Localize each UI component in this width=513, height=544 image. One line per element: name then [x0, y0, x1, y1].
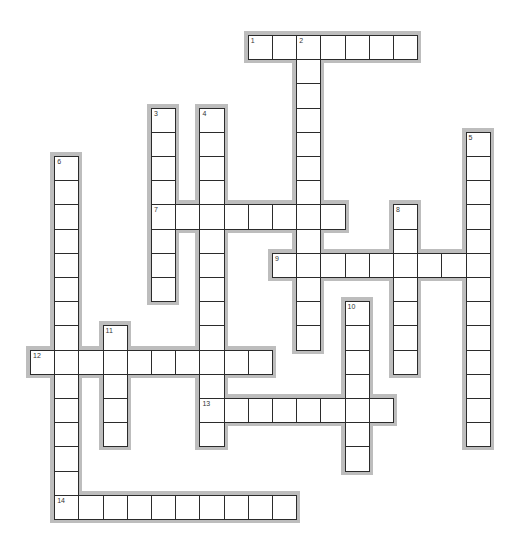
crossword-cell[interactable]: [54, 301, 79, 326]
crossword-cell[interactable]: [199, 229, 224, 254]
crossword-cell[interactable]: [369, 398, 394, 423]
crossword-cell[interactable]: [151, 132, 176, 157]
crossword-cell[interactable]: [296, 132, 321, 157]
crossword-cell[interactable]: [296, 59, 321, 84]
crossword-cell[interactable]: [199, 204, 224, 229]
crossword-cell[interactable]: 12: [30, 350, 55, 375]
crossword-cell[interactable]: [199, 301, 224, 326]
crossword-cell[interactable]: [296, 83, 321, 108]
crossword-cell[interactable]: [272, 204, 297, 229]
crossword-cell[interactable]: [54, 350, 79, 375]
crossword-cell[interactable]: [54, 446, 79, 471]
crossword-cell[interactable]: [466, 277, 491, 302]
crossword-cell[interactable]: [78, 350, 103, 375]
crossword-cell[interactable]: [393, 277, 418, 302]
crossword-cell[interactable]: [175, 495, 200, 520]
crossword-cell[interactable]: [466, 422, 491, 447]
crossword-cell[interactable]: [466, 229, 491, 254]
crossword-cell[interactable]: [296, 108, 321, 133]
crossword-cell[interactable]: [151, 180, 176, 205]
crossword-cell[interactable]: [199, 180, 224, 205]
crossword-cell[interactable]: [199, 495, 224, 520]
crossword-cell[interactable]: [54, 471, 79, 496]
crossword-cell[interactable]: [466, 398, 491, 423]
crossword-cell[interactable]: [248, 350, 273, 375]
crossword-cell[interactable]: [54, 253, 79, 278]
crossword-cell[interactable]: [127, 350, 152, 375]
crossword-cell[interactable]: [248, 204, 273, 229]
crossword-cell[interactable]: [199, 277, 224, 302]
crossword-cell[interactable]: 9: [272, 253, 297, 278]
crossword-cell[interactable]: [345, 350, 370, 375]
crossword-cell[interactable]: 11: [103, 325, 128, 350]
crossword-cell[interactable]: [151, 350, 176, 375]
crossword-cell[interactable]: [393, 301, 418, 326]
crossword-cell[interactable]: [199, 422, 224, 447]
crossword-cell[interactable]: 5: [466, 132, 491, 157]
crossword-cell[interactable]: 3: [151, 108, 176, 133]
crossword-cell[interactable]: [345, 446, 370, 471]
crossword-cell[interactable]: [54, 229, 79, 254]
crossword-cell[interactable]: [54, 325, 79, 350]
crossword-cell[interactable]: [127, 495, 152, 520]
crossword-cell[interactable]: [393, 35, 418, 60]
crossword-cell[interactable]: [103, 495, 128, 520]
crossword-cell[interactable]: [393, 325, 418, 350]
crossword-cell[interactable]: [345, 35, 370, 60]
crossword-cell[interactable]: 1: [248, 35, 273, 60]
crossword-cell[interactable]: 8: [393, 204, 418, 229]
crossword-cell[interactable]: [103, 398, 128, 423]
crossword-cell[interactable]: 4: [199, 108, 224, 133]
crossword-cell[interactable]: [345, 374, 370, 399]
crossword-cell[interactable]: [296, 301, 321, 326]
crossword-cell[interactable]: [345, 325, 370, 350]
crossword-cell[interactable]: [320, 35, 345, 60]
crossword-cell[interactable]: [199, 350, 224, 375]
crossword-cell[interactable]: [345, 253, 370, 278]
crossword-cell[interactable]: [466, 204, 491, 229]
crossword-cell[interactable]: [199, 374, 224, 399]
crossword-cell[interactable]: [151, 277, 176, 302]
crossword-cell[interactable]: [320, 253, 345, 278]
crossword-cell[interactable]: [272, 35, 297, 60]
crossword-cell[interactable]: [296, 398, 321, 423]
crossword-cell[interactable]: [296, 229, 321, 254]
crossword-cell[interactable]: [466, 253, 491, 278]
crossword-cell[interactable]: [224, 398, 249, 423]
crossword-cell[interactable]: 14: [54, 495, 79, 520]
crossword-cell[interactable]: 6: [54, 156, 79, 181]
crossword-cell[interactable]: [417, 253, 442, 278]
crossword-cell[interactable]: [393, 229, 418, 254]
crossword-cell[interactable]: 10: [345, 301, 370, 326]
crossword-cell[interactable]: [54, 422, 79, 447]
crossword-cell[interactable]: [369, 253, 394, 278]
crossword-cell[interactable]: [369, 35, 394, 60]
crossword-cell[interactable]: [199, 325, 224, 350]
crossword-cell[interactable]: [320, 398, 345, 423]
crossword-cell[interactable]: [466, 156, 491, 181]
crossword-cell[interactable]: [272, 398, 297, 423]
crossword-cell[interactable]: 13: [199, 398, 224, 423]
crossword-cell[interactable]: [54, 277, 79, 302]
crossword-cell[interactable]: [224, 495, 249, 520]
crossword-cell[interactable]: [466, 374, 491, 399]
crossword-cell[interactable]: [54, 204, 79, 229]
crossword-cell[interactable]: [151, 229, 176, 254]
crossword-cell[interactable]: [296, 253, 321, 278]
crossword-cell[interactable]: [248, 398, 273, 423]
crossword-cell[interactable]: [199, 253, 224, 278]
crossword-cell[interactable]: [441, 253, 466, 278]
crossword-cell[interactable]: 2: [296, 35, 321, 60]
crossword-cell[interactable]: [151, 495, 176, 520]
crossword-cell[interactable]: [103, 374, 128, 399]
crossword-cell[interactable]: [151, 156, 176, 181]
crossword-cell[interactable]: [103, 350, 128, 375]
crossword-cell[interactable]: [466, 350, 491, 375]
crossword-cell[interactable]: [78, 495, 103, 520]
crossword-cell[interactable]: [175, 350, 200, 375]
crossword-cell[interactable]: [296, 156, 321, 181]
crossword-cell[interactable]: [54, 398, 79, 423]
crossword-cell[interactable]: [296, 277, 321, 302]
crossword-cell[interactable]: [54, 180, 79, 205]
crossword-cell[interactable]: [466, 325, 491, 350]
